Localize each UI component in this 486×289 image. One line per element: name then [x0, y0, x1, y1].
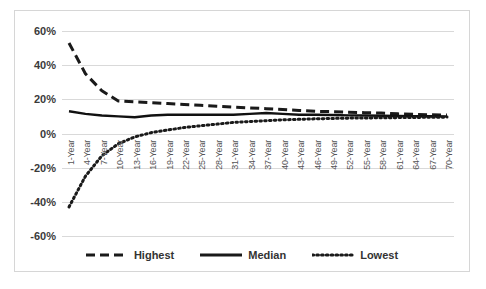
x-axis-tick-label: 22-Year: [181, 140, 191, 170]
x-axis-tick-label: 16-Year: [148, 140, 158, 170]
legend-label: Highest: [134, 249, 174, 261]
x-axis-tick-label: 28-Year: [214, 140, 224, 170]
x-axis-tick-label: 37-Year: [263, 140, 273, 170]
legend-swatch-dotted-icon: [312, 250, 354, 260]
x-axis-tick-label: 46-Year: [313, 140, 323, 170]
x-axis-tick-label: 4-Year: [82, 140, 92, 165]
x-axis-tick-label: 58-Year: [378, 140, 388, 170]
x-axis-tick-label: 1-Year: [66, 140, 76, 165]
x-axis-tick-label: 64-Year: [411, 140, 421, 170]
series-line-highest: [69, 43, 447, 115]
x-axis-tick-label: 10-Year: [115, 140, 125, 170]
x-axis-tick-label: 52-Year: [345, 140, 355, 170]
x-axis-tick-label: 31-Year: [230, 140, 240, 170]
chart-container: 60%40%20%0%-20%-40%-60% 1-Year4-Year7-Ye…: [0, 0, 486, 289]
x-axis-tick-label: 25-Year: [197, 140, 207, 170]
x-axis-tick-label: 43-Year: [296, 140, 306, 170]
legend-label: Median: [248, 249, 286, 261]
legend-swatch-dashed-icon: [86, 250, 128, 260]
x-axis-tick-label: 49-Year: [329, 140, 339, 170]
x-axis-tick-label: 61-Year: [395, 140, 405, 170]
x-axis-tick-label: 40-Year: [280, 140, 290, 170]
legend-swatch-solid-icon: [200, 250, 242, 260]
x-axis-tick-label: 34-Year: [247, 140, 257, 170]
x-axis-tick-label: 70-Year: [444, 140, 454, 170]
chart-legend: HighestMedianLowest: [14, 243, 470, 267]
legend-item-highest[interactable]: Highest: [86, 249, 174, 261]
x-axis-tick-label: 19-Year: [165, 140, 175, 170]
x-axis-tick-label: 7-Year: [99, 140, 109, 165]
x-axis-tick-label: 13-Year: [132, 140, 142, 170]
legend-label: Lowest: [360, 249, 398, 261]
x-axis: 1-Year4-Year7-Year10-Year13-Year16-Year1…: [62, 140, 454, 236]
x-axis-tick-label: 55-Year: [362, 140, 372, 170]
gridline: [62, 236, 454, 237]
legend-item-median[interactable]: Median: [200, 249, 286, 261]
x-axis-tick-label: 67-Year: [428, 140, 438, 170]
legend-item-lowest[interactable]: Lowest: [312, 249, 398, 261]
